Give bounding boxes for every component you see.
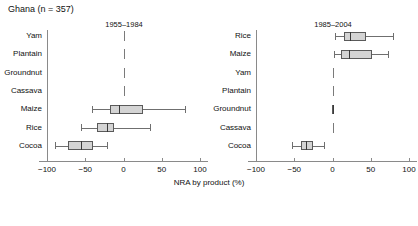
whisker-low-cap — [292, 142, 293, 149]
median-line — [107, 123, 108, 132]
whisker-low-line — [81, 128, 97, 129]
y-axis-category-label: Rice — [0, 123, 42, 132]
x-axis-tick — [124, 158, 125, 161]
x-axis-tick — [333, 158, 334, 161]
whisker-low-cap — [81, 124, 82, 131]
x-axis-title: NRA by product (%) — [0, 178, 418, 187]
whisker-high-cap — [393, 33, 394, 40]
y-axis-category-label: Cassava — [181, 123, 251, 132]
chart-root: Ghana (n = 357) 1955–1984−100−50050100Ya… — [0, 0, 418, 226]
x-axis-tick — [294, 158, 295, 161]
x-axis-tick-label: 0 — [313, 165, 353, 174]
x-axis-tick-label: −100 — [27, 165, 67, 174]
x-axis-tick-label: −50 — [274, 165, 314, 174]
panel-title: 1955–1984 — [84, 20, 164, 29]
boxplot-degenerate-mark — [333, 86, 334, 96]
y-axis-line — [256, 30, 257, 161]
y-axis-category-label: Maize — [181, 49, 251, 58]
boxplot-degenerate-mark — [124, 49, 125, 59]
y-axis-category-label: Rice — [181, 31, 251, 40]
x-axis-line — [248, 161, 417, 162]
median-line — [306, 141, 307, 150]
panel-title: 1985–2004 — [293, 20, 373, 29]
whisker-low-line — [335, 36, 344, 37]
whisker-low-line — [292, 146, 301, 147]
median-line — [81, 141, 82, 150]
boxplot-degenerate-mark — [333, 68, 334, 78]
median-line — [119, 105, 120, 114]
x-axis-tick — [47, 158, 48, 161]
boxplot-degenerate-mark — [124, 68, 125, 78]
whisker-low-line — [55, 146, 68, 147]
whisker-high-line — [313, 146, 324, 147]
box-iqr — [110, 105, 143, 114]
x-axis-tick — [256, 158, 257, 161]
y-axis-category-label: Yam — [0, 31, 42, 40]
y-axis-category-label: Cassava — [0, 86, 42, 95]
y-axis-line — [47, 30, 48, 161]
whisker-low-line — [334, 54, 341, 55]
x-axis-tick-label: 50 — [142, 165, 182, 174]
whisker-high-cap — [107, 142, 108, 149]
x-axis-tick-label: 0 — [104, 165, 144, 174]
whisker-low-cap — [335, 33, 336, 40]
x-axis-tick-label: −50 — [65, 165, 105, 174]
y-axis-category-label: Plantain — [0, 49, 42, 58]
y-axis-category-label: Maize — [0, 104, 42, 113]
panel-1985-2004: 1985–2004−100−50050100RiceMaizeYamPlanta… — [209, 0, 418, 226]
whisker-low-cap — [92, 106, 93, 113]
whisker-high-cap — [324, 142, 325, 149]
whisker-high-line — [143, 109, 185, 110]
y-axis-category-label: Cocoa — [0, 141, 42, 150]
whisker-high-line — [93, 146, 108, 147]
y-axis-category-label: Groundnut — [181, 104, 251, 113]
x-axis-tick-label: −100 — [236, 165, 276, 174]
y-axis-category-label: Groundnut — [0, 68, 42, 77]
y-axis-category-label: Plantain — [181, 86, 251, 95]
x-axis-tick — [409, 158, 410, 161]
whisker-low-cap — [55, 142, 56, 149]
whisker-high-cap — [388, 51, 389, 58]
whisker-high-cap — [150, 124, 151, 131]
x-axis-tick-label: 50 — [351, 165, 391, 174]
boxplot-degenerate-mark — [124, 31, 125, 41]
box-iqr — [341, 50, 372, 59]
box-iqr — [344, 32, 366, 41]
median-line — [349, 50, 350, 59]
median-line — [350, 32, 351, 41]
x-axis-line — [39, 161, 208, 162]
boxplot-degenerate-mark — [333, 123, 334, 133]
whisker-high-line — [366, 36, 393, 37]
median-line — [333, 105, 334, 114]
x-axis-tick — [200, 158, 201, 161]
boxplot-degenerate-mark — [124, 86, 125, 96]
whisker-low-cap — [334, 51, 335, 58]
y-axis-category-label: Cocoa — [181, 141, 251, 150]
x-axis-tick — [371, 158, 372, 161]
whisker-low-line — [92, 109, 110, 110]
x-axis-tick-label: 100 — [389, 165, 418, 174]
whisker-high-line — [114, 128, 150, 129]
panel-1955-1984: 1955–1984−100−50050100YamPlantainGroundn… — [0, 0, 209, 226]
y-axis-category-label: Yam — [181, 68, 251, 77]
x-axis-tick — [162, 158, 163, 161]
whisker-high-line — [372, 54, 387, 55]
x-axis-tick — [85, 158, 86, 161]
